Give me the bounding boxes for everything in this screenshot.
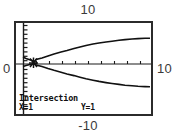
calculator-screen[interactable]: Intersection X=1 Y=1 [14,21,153,116]
window-ymax-label: 10 [0,3,176,16]
graph-plot-area[interactable] [16,23,151,114]
window-xmin-label: 0 [3,62,11,75]
intersection-cursor-icon [29,58,38,69]
window-ymin-label: -10 [0,119,176,132]
curve-upper [23,38,150,61]
window-xmax-label: 10 [157,62,172,75]
curve-lower [23,64,150,87]
